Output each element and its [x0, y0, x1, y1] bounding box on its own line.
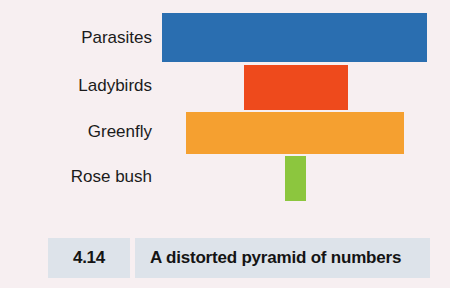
figure-number: 4.14 [48, 248, 130, 268]
tier-label-ladybirds: Ladybirds [0, 76, 152, 96]
figure-root: Parasites Ladybirds Greenfly Rose bush 4… [0, 0, 450, 288]
pyramid-of-numbers-chart: Parasites Ladybirds Greenfly Rose bush [0, 0, 450, 215]
tier-bar-greenfly [186, 112, 404, 154]
figure-caption-bar: 4.14 A distorted pyramid of numbers [48, 238, 430, 278]
tier-bar-rose-bush [285, 156, 306, 201]
tier-label-parasites: Parasites [0, 28, 152, 48]
tier-label-rose-bush: Rose bush [0, 167, 152, 187]
tier-label-greenfly: Greenfly [0, 122, 152, 142]
tier-bar-ladybirds [244, 65, 348, 110]
tier-bar-parasites [162, 13, 427, 62]
figure-caption-text: A distorted pyramid of numbers [135, 248, 430, 268]
